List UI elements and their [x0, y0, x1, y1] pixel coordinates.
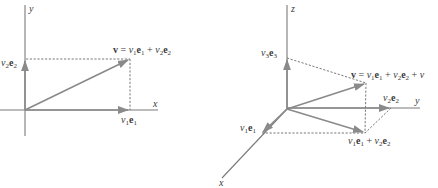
x-axis-label-2d: x — [152, 98, 158, 109]
x-axis-label-3d: x — [218, 177, 224, 188]
y-axis-label-2d: y — [28, 3, 34, 14]
dashed-e2-to-xy-3d — [365, 108, 391, 133]
component-label-y-3d: v2e2 — [383, 92, 399, 105]
vector-sum-xy-3d — [287, 109, 363, 132]
vector-v-3d — [287, 84, 364, 109]
component-label-x-3d: v1e1 — [240, 122, 256, 135]
y-axis-label-3d: y — [414, 95, 420, 106]
right-3d-diagram: z y x v3e3 v2e2 v1e1 v1e1 + v2e2 v = v1e… — [218, 3, 425, 188]
component-label-y-2d: v2e2 — [1, 57, 17, 70]
component-label-x-2d: v1e1 — [121, 114, 137, 127]
vector-equation-2d: v = v1e1 + v2e2 — [113, 44, 172, 57]
component-label-z-3d: v3e3 — [261, 47, 277, 60]
vector-equation-3d: v = v1e1 + v2e2 + v — [351, 69, 425, 82]
sum-label-xy-3d: v1e1 + v2e2 — [348, 135, 391, 148]
vector-diagrams: y x v = v1e1 + v2e2 v2e2 v1e1 — [0, 0, 438, 188]
component-vector-e1-3d — [263, 109, 287, 132]
left-2d-diagram: y x v = v1e1 + v2e2 v2e2 v1e1 — [0, 3, 172, 136]
vector-v-2d — [25, 60, 128, 110]
z-axis-label-3d: z — [290, 3, 295, 14]
